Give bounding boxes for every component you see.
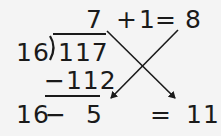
division-bracket (50, 36, 54, 60)
minus-sign: − (45, 102, 67, 127)
divisor: 16 (16, 40, 50, 65)
plus-sign: + (116, 7, 138, 32)
equals-bottom: = (150, 102, 172, 127)
product: −112 (44, 68, 117, 93)
one: 1 (139, 7, 156, 32)
remainder: 5 (86, 102, 103, 127)
arrow-to-five (111, 30, 178, 98)
arrow-to-eleven (107, 31, 175, 98)
result-eight: 8 (185, 7, 202, 32)
equals-top: = (155, 7, 177, 32)
result-eleven: 11 (186, 102, 220, 127)
quotient: 7 (86, 7, 103, 32)
dividend: 117 (58, 40, 109, 65)
